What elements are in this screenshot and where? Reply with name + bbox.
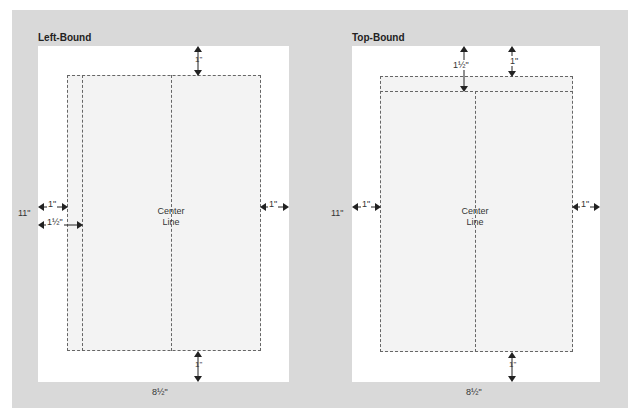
center-label-line1: Center	[455, 206, 495, 217]
center-label-line2: Line	[151, 217, 191, 228]
binding-margin-label: 1½"	[452, 60, 470, 70]
page-width-label: 8½"	[152, 387, 168, 397]
bottom-margin-label: 1"	[195, 360, 202, 369]
right-margin-label: 1"	[268, 199, 278, 209]
right-margin-label: 1"	[580, 199, 590, 209]
binding-line	[82, 75, 83, 351]
page-height-label: 11"	[331, 208, 344, 218]
center-label-line2: Line	[455, 217, 495, 228]
top-margin-label: 1"	[195, 55, 202, 64]
center-line-label: Center Line	[455, 206, 495, 228]
page-height-label: 11"	[18, 208, 31, 218]
left-margin-label: 1"	[361, 199, 371, 209]
panel-title: Left-Bound	[38, 32, 91, 43]
left-margin-label: 1"	[47, 199, 57, 209]
center-label-line1: Center	[151, 206, 191, 217]
top-margin-label: 1"	[509, 56, 519, 66]
bottom-margin-label: 1"	[509, 360, 516, 369]
page-width-label: 8½"	[466, 387, 482, 397]
panel-title: Top-Bound	[352, 32, 405, 43]
binding-line	[380, 91, 573, 92]
center-line-label: Center Line	[151, 206, 191, 228]
binding-margin-label: 1½"	[46, 217, 64, 227]
